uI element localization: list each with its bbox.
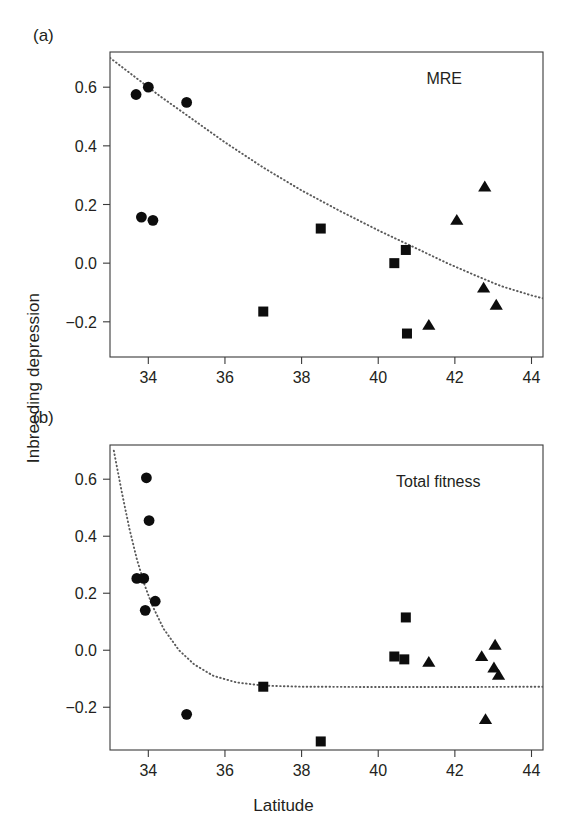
x-tick-label: 42 [446, 369, 464, 386]
x-tick-label: 40 [369, 762, 387, 779]
data-point-square [402, 329, 412, 339]
x-tick-label: 40 [369, 369, 387, 386]
data-point-circle [136, 212, 147, 223]
y-tick-label: 0.0 [75, 255, 97, 272]
fitted-curve [110, 58, 543, 298]
fitted-curve [114, 451, 543, 687]
y-tick-label: 0.2 [75, 197, 97, 214]
data-point-triangle [475, 650, 488, 661]
y-tick-label: 0.6 [75, 471, 97, 488]
y-tick-label: 0.0 [75, 642, 97, 659]
y-tick-label: 0.4 [75, 528, 97, 545]
data-point-square [258, 307, 268, 317]
data-point-square [401, 612, 411, 622]
data-point-square [389, 652, 399, 662]
data-point-triangle [450, 214, 463, 225]
data-point-triangle [422, 319, 435, 330]
data-point-circle [181, 97, 192, 108]
data-point-circle [141, 472, 152, 483]
data-point-circle [143, 82, 154, 93]
x-tick-label: 34 [139, 762, 157, 779]
plot-frame [110, 445, 543, 750]
y-tick-label: 0.2 [75, 585, 97, 602]
x-tick-label: 36 [216, 369, 234, 386]
x-tick-label: 38 [293, 369, 311, 386]
y-tick-label: 0.4 [75, 138, 97, 155]
data-point-triangle [422, 656, 435, 667]
data-point-square [316, 736, 326, 746]
x-tick-label: 36 [216, 762, 234, 779]
x-tick-label: 34 [139, 369, 157, 386]
scatter-plot-panel-a: 3436384042440.60.40.20.0−0.2 [0, 0, 567, 400]
data-point-circle [181, 709, 192, 720]
x-tick-label: 42 [446, 762, 464, 779]
data-point-square [316, 224, 326, 234]
scatter-plot-panel-b: 3436384042440.60.40.20.0−0.2 [0, 400, 567, 820]
y-tick-label: −0.2 [65, 699, 97, 716]
data-point-square [258, 682, 268, 692]
data-point-square [401, 245, 411, 255]
x-tick-label: 38 [293, 762, 311, 779]
data-point-square [389, 258, 399, 268]
data-point-triangle [489, 639, 502, 650]
data-point-circle [131, 89, 142, 100]
data-point-triangle [490, 299, 503, 310]
data-point-square [399, 654, 409, 664]
x-tick-label: 44 [523, 762, 541, 779]
data-point-circle [150, 596, 161, 607]
data-point-triangle [478, 181, 491, 192]
data-point-circle [144, 515, 155, 526]
data-point-triangle [477, 282, 490, 293]
x-tick-label: 44 [523, 369, 541, 386]
data-point-circle [138, 573, 149, 584]
figure-container: Inbreeding depression Latitude (a) (b) M… [0, 0, 567, 836]
y-tick-label: 0.6 [75, 79, 97, 96]
data-point-circle [140, 605, 151, 616]
y-tick-label: −0.2 [65, 314, 97, 331]
data-point-circle [148, 215, 159, 226]
data-point-triangle [479, 713, 492, 724]
